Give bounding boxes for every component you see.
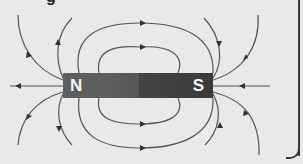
arrow-icon — [140, 145, 146, 151]
south-pole-label: S — [193, 76, 204, 96]
field-line-left-top-outer — [18, 15, 63, 80]
field-line-right-bottom-inner — [205, 94, 218, 145]
arrow-icon — [239, 83, 245, 89]
bar-magnet: N S — [63, 73, 213, 98]
field-line-bottom-inner — [98, 98, 179, 124]
arrow-icon — [15, 83, 21, 89]
north-pole-label: N — [70, 76, 82, 96]
arrow-icon — [140, 20, 146, 26]
arrow-icon — [140, 121, 146, 127]
field-line-top-inner — [98, 47, 179, 73]
arrow-icon — [216, 41, 222, 47]
field-line-left-bottom-inner — [59, 94, 72, 145]
arrow-icon — [140, 44, 146, 50]
arrow-icon — [56, 126, 62, 132]
field-line-right-top-outer — [213, 15, 258, 80]
arrow-icon — [26, 114, 32, 120]
field-line-left-bottom-outer — [18, 92, 63, 145]
diagram-frame: g — [0, 0, 303, 164]
field-line-left-top-inner — [58, 18, 72, 78]
south-pole: S — [139, 73, 213, 98]
field-line-right-top-inner — [204, 18, 220, 78]
north-pole: N — [63, 73, 139, 98]
frame-border-right — [298, 0, 300, 156]
